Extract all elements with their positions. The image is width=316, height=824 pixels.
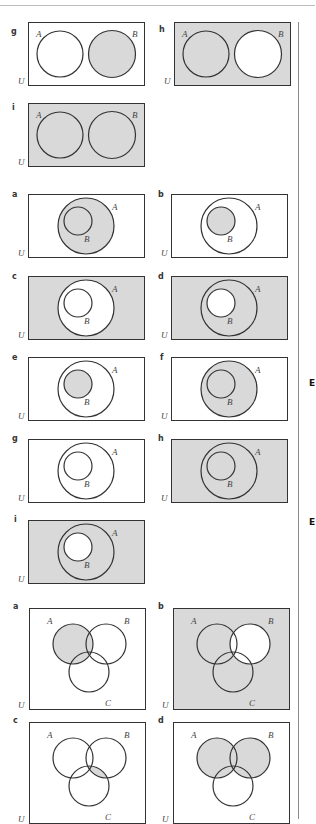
item-label-g: g [11, 27, 17, 36]
set-a-label: A [190, 616, 197, 626]
set-b-label: B [124, 616, 130, 626]
set-b-label: B [268, 730, 274, 740]
universe-label: U [164, 76, 171, 86]
item-label-i: i [12, 103, 15, 112]
universe-label: U [18, 574, 25, 584]
set-b-label: B [268, 616, 274, 626]
venn-disjoint-i: A B U [28, 103, 145, 167]
top-rule [0, 5, 315, 6]
venn-nested-d: A B U [171, 276, 288, 340]
venn-nested-h: A B U [171, 439, 288, 503]
set-b-label: B [84, 397, 90, 407]
item-label-d: d [158, 716, 164, 725]
column-divider [298, 22, 299, 819]
item-label-a: a [12, 190, 17, 199]
set-b-label: B [227, 234, 233, 244]
venn-disjoint-g: A B U [28, 22, 145, 86]
universe-label: U [18, 248, 25, 258]
set-a-label: A [254, 284, 261, 294]
item-label-h: h [158, 434, 164, 443]
item-label-d: d [158, 272, 164, 281]
universe-label: U [18, 493, 25, 503]
set-a-label: A [111, 284, 118, 294]
universe-label: U [18, 76, 25, 86]
venn-three-a: A B U C U [29, 608, 146, 710]
set-c-label: C [249, 698, 256, 708]
set-b-label: B [278, 29, 284, 39]
set-a-label: A [46, 616, 53, 626]
venn-nested-g: A B U [28, 439, 145, 503]
set-a-label: A [46, 730, 53, 740]
set-b-circle [207, 207, 235, 235]
set-b-circle [207, 289, 235, 317]
set-c-label: C [249, 812, 256, 822]
set-b-label: B [227, 479, 233, 489]
set-b-label: B [84, 560, 90, 570]
item-label-g: g [12, 434, 18, 443]
venn-disjoint-h: A B U [174, 22, 291, 86]
set-b-label: B [132, 110, 138, 120]
set-a-label: A [254, 365, 261, 375]
set-b-circle [235, 31, 282, 78]
universe-label: U [161, 330, 168, 340]
set-b-label: B [132, 29, 138, 39]
set-b-circle [64, 452, 92, 480]
item-label-c: c [13, 716, 18, 725]
universe-label: U [161, 411, 168, 421]
item-label-b: b [158, 602, 164, 611]
set-a-label: A [111, 447, 118, 457]
universe-label: U [18, 330, 25, 340]
set-b-label: B [124, 730, 130, 740]
set-b-label: B [84, 316, 90, 326]
item-label-c: c [12, 272, 17, 281]
venn-three-b: A B C U [173, 608, 290, 710]
set-a-label: A [181, 29, 188, 39]
universe-label: U [18, 411, 25, 421]
set-a-label: A [190, 730, 197, 740]
venn-three-d: A B C U [173, 722, 290, 824]
item-label-b: b [158, 190, 164, 199]
set-b-circle [89, 112, 136, 159]
set-b-label: B [227, 316, 233, 326]
set-b-circle [207, 370, 235, 398]
universe-label: U [18, 700, 25, 710]
item-label-i: i [14, 515, 17, 524]
set-a-label: A [254, 202, 261, 212]
venn-three-c: A B C U [29, 722, 146, 824]
set-a-label: A [35, 29, 42, 39]
venn-nested-i: A B U [28, 520, 145, 584]
set-a-label: A [35, 110, 42, 120]
item-label-a: a [13, 602, 18, 611]
set-a-label: A [254, 447, 261, 457]
set-a-circle [37, 112, 83, 158]
universe-label: U [161, 248, 168, 258]
set-a-circle [183, 31, 229, 77]
set-a-label: A [111, 365, 118, 375]
set-b-label: B [84, 479, 90, 489]
margin-mark-exercise: E [309, 517, 315, 527]
set-b-circle [64, 370, 92, 398]
margin-mark-exercise: E [309, 378, 315, 388]
venn-nested-c: A B U [28, 276, 145, 340]
set-b-label: B [84, 234, 90, 244]
universe-label: U [161, 493, 168, 503]
set-a-label: A [111, 528, 118, 538]
set-c-label: C [105, 698, 112, 708]
venn-nested-a: A B U [28, 194, 145, 258]
item-label-e: e [12, 353, 17, 362]
universe-label: U [18, 157, 25, 167]
item-label-f: f [160, 353, 163, 362]
set-b-circle [64, 533, 92, 561]
venn-nested-b: A B U [171, 194, 288, 258]
venn-nested-e: A B U [28, 357, 145, 421]
set-a-circle [37, 31, 83, 77]
set-c-label: C [105, 812, 112, 822]
item-label-h: h [159, 25, 165, 34]
universe-label: U [162, 700, 169, 710]
venn-nested-f: A B U [171, 357, 288, 421]
set-b-circle [207, 452, 235, 480]
universe-label: U [162, 814, 169, 824]
set-a-label: A [111, 202, 118, 212]
set-b-circle [89, 31, 136, 78]
set-b-label: B [227, 397, 233, 407]
